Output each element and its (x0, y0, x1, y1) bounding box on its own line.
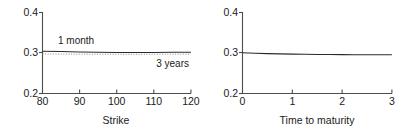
y-tick-label-0.3: 0.3 (23, 46, 38, 58)
x-axis-title-time-to-maturity: Time to maturity (280, 114, 356, 126)
x-tick-label-120: 120 (182, 95, 200, 107)
y-tick-label-0.4: 0.4 (223, 6, 238, 18)
chart-panel-strike: 0.4 0.3 0.2 80 90 100 (0, 0, 202, 131)
x-tick-label-2: 2 (339, 95, 345, 107)
y-tick-label-0.4: 0.4 (23, 6, 38, 18)
y-tick-label-0.2: 0.2 (223, 87, 238, 99)
x-tick-label-90: 90 (74, 95, 86, 107)
annotation-3-years: 3 years (156, 58, 189, 69)
x-tick-marks (243, 90, 392, 94)
annotation-1-month: 1 month (58, 35, 94, 46)
x-tick-label-0: 0 (240, 95, 246, 107)
x-axis-title-strike: Strike (103, 114, 130, 126)
x-tick-label-1: 1 (289, 95, 295, 107)
x-tick-marks (43, 90, 191, 94)
x-tick-label-110: 110 (145, 95, 162, 107)
x-tick-label-3: 3 (389, 95, 395, 107)
chart-panel-maturity: 0.4 0.3 0.2 0 1 2 3 (202, 0, 404, 131)
y-tick-label-0.3: 0.3 (223, 46, 238, 58)
x-tick-label-100: 100 (108, 95, 126, 107)
figure-container: 0.4 0.3 0.2 80 90 100 (0, 0, 404, 131)
x-tick-label-80: 80 (37, 95, 49, 107)
series-line-1-month (43, 51, 191, 52)
series-line-implied-volatility (243, 53, 392, 55)
